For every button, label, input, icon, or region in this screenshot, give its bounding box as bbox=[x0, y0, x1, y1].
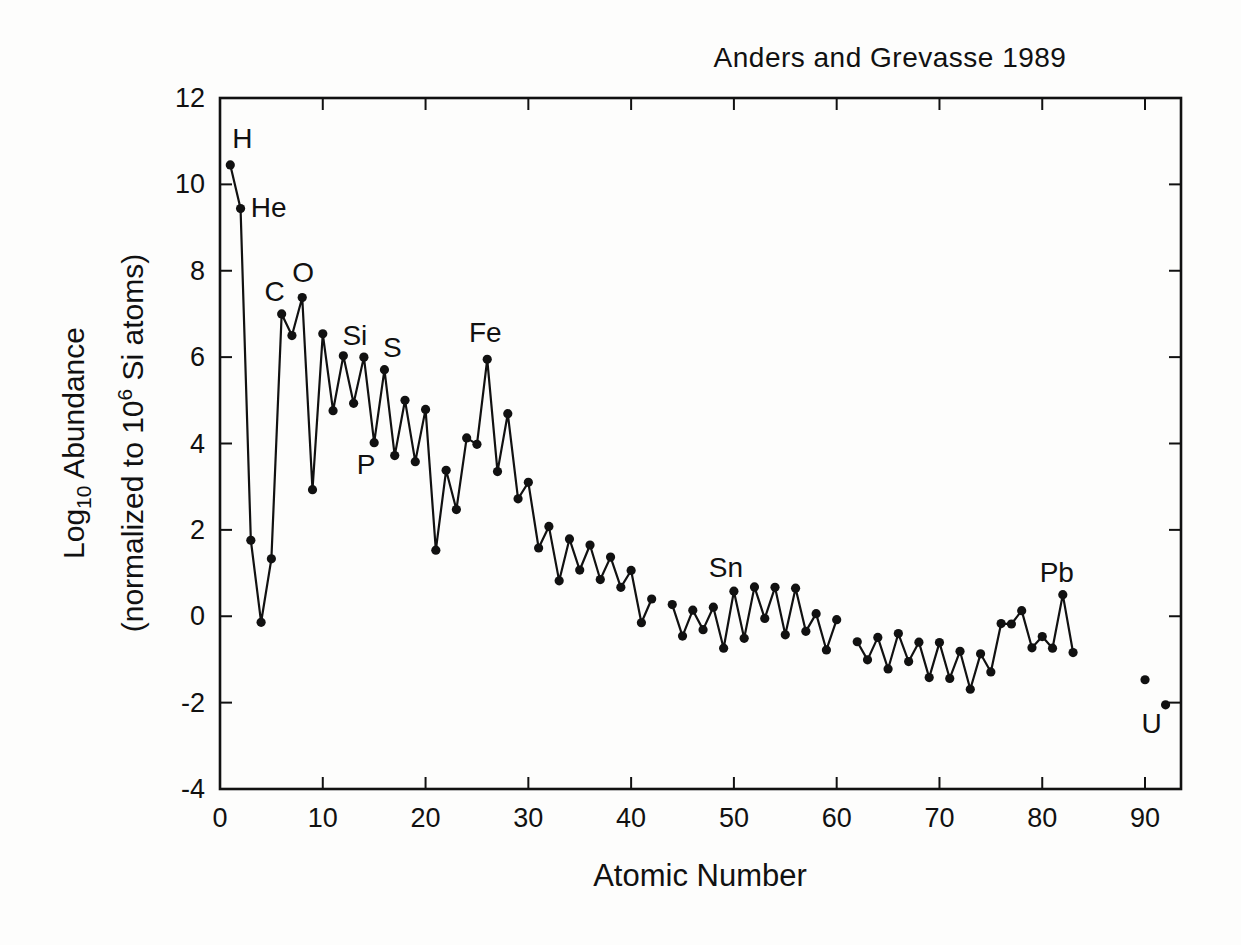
data-point bbox=[400, 396, 409, 405]
data-point bbox=[328, 406, 337, 415]
abundance-line-segment bbox=[230, 165, 651, 623]
data-point bbox=[442, 466, 451, 475]
data-point bbox=[955, 647, 964, 656]
data-point bbox=[493, 467, 502, 476]
y-tick-label: 0 bbox=[190, 601, 205, 631]
data-point bbox=[873, 633, 882, 642]
data-point bbox=[1038, 632, 1047, 641]
data-point bbox=[339, 351, 348, 360]
data-point bbox=[822, 645, 831, 654]
data-point bbox=[513, 494, 522, 503]
element-label-h: H bbox=[232, 123, 252, 154]
x-tick-label: 30 bbox=[513, 803, 543, 833]
data-point bbox=[832, 615, 841, 624]
data-point bbox=[883, 664, 892, 673]
data-point bbox=[678, 632, 687, 641]
x-tick-label: 60 bbox=[822, 803, 852, 833]
data-point bbox=[462, 433, 471, 442]
data-point bbox=[1048, 644, 1057, 653]
element-label-he: He bbox=[251, 192, 287, 223]
x-tick-label: 80 bbox=[1027, 803, 1057, 833]
data-point bbox=[287, 331, 296, 340]
data-point bbox=[966, 685, 975, 694]
abundance-line-segment bbox=[857, 595, 1073, 690]
data-point bbox=[1017, 606, 1026, 615]
data-point bbox=[791, 584, 800, 593]
abundance-scatter-plot: 0102030405060708090-4-2024681012HHeCOSiS… bbox=[0, 0, 1241, 945]
data-point bbox=[945, 674, 954, 683]
data-point bbox=[719, 644, 728, 653]
data-point bbox=[1068, 648, 1077, 657]
x-tick-label: 0 bbox=[212, 803, 227, 833]
x-tick-label: 50 bbox=[719, 803, 749, 833]
x-tick-label: 40 bbox=[616, 803, 646, 833]
data-point bbox=[863, 655, 872, 664]
x-axis-title: Atomic Number bbox=[593, 858, 807, 894]
data-point bbox=[627, 566, 636, 575]
data-point bbox=[616, 583, 625, 592]
data-point bbox=[380, 365, 389, 374]
data-point bbox=[997, 619, 1006, 628]
element-label-pb: Pb bbox=[1040, 557, 1074, 588]
element-label-o: O bbox=[292, 257, 314, 288]
data-point bbox=[914, 638, 923, 647]
data-point bbox=[729, 587, 738, 596]
data-point bbox=[925, 673, 934, 682]
data-point bbox=[647, 594, 656, 603]
data-point bbox=[801, 627, 810, 636]
data-point bbox=[935, 638, 944, 647]
data-point bbox=[750, 582, 759, 591]
data-point bbox=[1140, 675, 1149, 684]
data-point bbox=[483, 355, 492, 364]
data-point bbox=[246, 536, 255, 545]
abundance-figure: Anders and Grevasse 1989 Log10 Abundance… bbox=[0, 0, 1241, 945]
data-point bbox=[226, 160, 235, 169]
data-point bbox=[770, 583, 779, 592]
y-tick-label: 12 bbox=[175, 83, 205, 113]
data-point bbox=[585, 540, 594, 549]
data-point bbox=[298, 293, 307, 302]
data-point bbox=[986, 667, 995, 676]
element-label-sn: Sn bbox=[709, 552, 743, 583]
data-point bbox=[606, 552, 615, 561]
data-point bbox=[555, 576, 564, 585]
data-point bbox=[709, 603, 718, 612]
data-point bbox=[740, 634, 749, 643]
data-point bbox=[812, 609, 821, 618]
y-tick-label: 10 bbox=[175, 169, 205, 199]
data-point bbox=[308, 485, 317, 494]
data-point bbox=[472, 440, 481, 449]
y-tick-label: -2 bbox=[181, 688, 205, 718]
data-point bbox=[544, 522, 553, 531]
y-tick-label: -4 bbox=[181, 774, 205, 804]
plot-frame bbox=[220, 98, 1181, 789]
data-point bbox=[431, 546, 440, 555]
data-point bbox=[668, 600, 677, 609]
y-tick-label: 6 bbox=[190, 342, 205, 372]
data-point bbox=[277, 309, 286, 318]
element-label-c: C bbox=[265, 276, 285, 307]
data-point bbox=[257, 618, 266, 627]
data-point bbox=[698, 625, 707, 634]
data-point bbox=[1007, 619, 1016, 628]
abundance-line-segment bbox=[672, 587, 836, 650]
element-label-si: Si bbox=[342, 320, 367, 351]
element-label-u: U bbox=[1141, 708, 1161, 739]
data-point bbox=[503, 409, 512, 418]
y-tick-label: 2 bbox=[190, 515, 205, 545]
x-tick-label: 10 bbox=[308, 803, 338, 833]
data-point bbox=[236, 204, 245, 213]
data-point bbox=[1161, 700, 1170, 709]
data-point bbox=[853, 637, 862, 646]
data-point bbox=[1058, 590, 1067, 599]
data-point bbox=[1027, 643, 1036, 652]
data-point bbox=[452, 505, 461, 514]
y-tick-label: 8 bbox=[190, 256, 205, 286]
element-label-s: S bbox=[383, 332, 402, 363]
data-point bbox=[565, 534, 574, 543]
data-point bbox=[575, 565, 584, 574]
data-point bbox=[318, 329, 327, 338]
data-point bbox=[349, 399, 358, 408]
data-point bbox=[524, 478, 533, 487]
data-point bbox=[267, 554, 276, 563]
